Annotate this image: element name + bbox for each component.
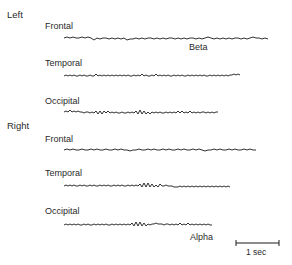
trace-right-frontal (64, 149, 256, 151)
trace-right-temporal (64, 183, 230, 187)
trace-left-temporal (64, 74, 240, 76)
trace-left-frontal (64, 37, 268, 40)
trace-left-occipital (64, 110, 218, 114)
scale-bar (236, 240, 279, 246)
eeg-traces (0, 0, 292, 265)
trace-right-occipital (64, 222, 212, 226)
